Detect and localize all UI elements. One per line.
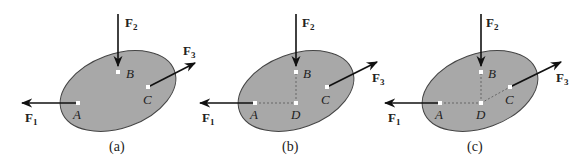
point-b-marker bbox=[116, 70, 120, 74]
point-d-marker bbox=[294, 101, 298, 105]
force-f3-label: F3 bbox=[183, 43, 196, 60]
force-f1-label: F1 bbox=[25, 110, 38, 127]
force-f3-label: F3 bbox=[556, 70, 569, 87]
panel-c: B C A D F2 F3 F1 (c) bbox=[385, 14, 569, 155]
force-f2-label: F2 bbox=[486, 15, 499, 32]
point-c-label: C bbox=[143, 92, 152, 107]
force-diagram: B C A F2 F3 F1 (a) B C A D F2 F3 F1 (b) bbox=[0, 0, 587, 165]
point-c-marker bbox=[508, 85, 512, 89]
point-a-label: A bbox=[249, 107, 258, 122]
caption-a: (a) bbox=[109, 139, 125, 155]
caption-b: (b) bbox=[282, 139, 299, 155]
force-f2-label: F2 bbox=[302, 15, 315, 32]
point-d-label: D bbox=[290, 107, 301, 122]
point-a-label: A bbox=[72, 107, 81, 122]
rigid-body bbox=[411, 36, 549, 147]
force-f3-label: F3 bbox=[372, 70, 385, 87]
point-a-marker bbox=[253, 101, 257, 105]
point-b-label: B bbox=[303, 66, 311, 81]
point-b-label: B bbox=[488, 66, 496, 81]
point-b-marker bbox=[479, 70, 483, 74]
point-b-marker bbox=[294, 70, 298, 74]
point-c-marker bbox=[146, 85, 150, 89]
panel-a: B C A F2 F3 F1 (a) bbox=[22, 14, 196, 155]
point-c-label: C bbox=[505, 92, 514, 107]
point-d-marker bbox=[479, 101, 483, 105]
point-a-marker bbox=[438, 101, 442, 105]
point-d-label: D bbox=[475, 107, 486, 122]
point-c-marker bbox=[325, 85, 329, 89]
force-f1-label: F1 bbox=[388, 110, 401, 127]
point-a-marker bbox=[76, 101, 80, 105]
caption-c: (c) bbox=[467, 139, 483, 155]
point-a-label: A bbox=[434, 107, 443, 122]
point-b-label: B bbox=[126, 66, 134, 81]
panel-b: B C A D F2 F3 F1 (b) bbox=[200, 14, 385, 155]
force-f2-label: F2 bbox=[125, 15, 138, 32]
force-f1-label: F1 bbox=[202, 110, 215, 127]
point-c-label: C bbox=[321, 92, 330, 107]
